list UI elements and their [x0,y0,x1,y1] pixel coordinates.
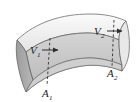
label-a2-subscript: 2 [114,74,118,82]
label-a1-symbol: A [41,87,49,99]
label-a2-symbol: A [106,67,114,79]
label-v1-subscript: 1 [37,51,41,59]
flow-tube-illustration: V 1 V 2 A 1 A 2 [0,0,136,102]
label-v2-subscript: 2 [101,32,105,40]
flow-tube-figure: V 1 V 2 A 1 A 2 [0,0,136,102]
label-a1-subscript: 1 [49,94,53,102]
